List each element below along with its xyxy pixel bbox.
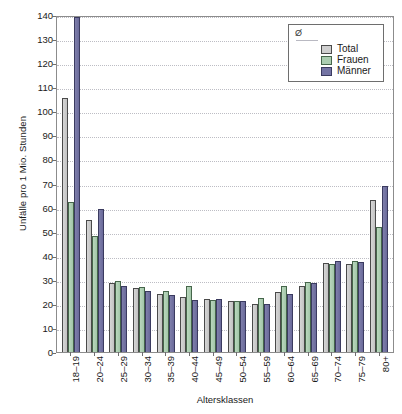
x-tick-label: 20–24 (94, 356, 105, 382)
y-tick-mark (52, 233, 56, 234)
x-tick-label: 65–69 (309, 356, 320, 382)
y-tick-label: 100 (7, 107, 53, 117)
bar-group (201, 17, 225, 352)
y-tick-label: 50 (7, 228, 53, 238)
y-tick-label: 130 (7, 35, 53, 45)
bar-mnner-80+ (382, 186, 388, 352)
legend-entry-frauen: Frauen (321, 55, 377, 65)
x-tick-label: 80+ (380, 356, 391, 372)
chart-figure: Unfälle pro 1 Mio. Stunden 1401301201101… (0, 0, 402, 414)
y-tick-label: 30 (7, 276, 53, 286)
bar-mnner-45-49 (216, 299, 222, 352)
legend-label: Total (337, 44, 358, 54)
y-tick-mark (52, 40, 56, 41)
mean-symbol: Ø (295, 29, 377, 38)
y-tick-mark (52, 353, 56, 354)
x-label-cell: 75–79 (344, 356, 368, 396)
bar-group (106, 17, 130, 352)
x-tick-label: 25–29 (118, 356, 129, 382)
x-label-cell: 45–49 (201, 356, 225, 396)
x-tick-label: 75–79 (356, 356, 367, 382)
bar-mnner-60-64 (287, 294, 293, 352)
y-tick-mark (52, 16, 56, 17)
y-tick-mark (52, 209, 56, 210)
x-label-cell: 70–74 (320, 356, 344, 396)
x-label-cell: 40–44 (177, 356, 201, 396)
y-tick-label: 0 (7, 348, 53, 358)
bar-group (154, 17, 178, 352)
bar-mnner-30-34 (145, 291, 151, 352)
y-tick-mark (52, 160, 56, 161)
x-tick-label: 35–39 (165, 356, 176, 382)
x-tick-label: 55–59 (261, 356, 272, 382)
x-axis-tick-labels: 18–1920–2425–2930–3435–3940–4445–4950–54… (56, 356, 394, 396)
x-label-cell: 65–69 (297, 356, 321, 396)
bar-group (59, 17, 83, 352)
x-label-cell: 50–54 (225, 356, 249, 396)
legend-swatch-total (321, 45, 332, 54)
y-tick-label: 20 (7, 300, 53, 310)
bar-mnner-55-59 (264, 304, 270, 352)
bar-mnner-50-54 (240, 301, 246, 352)
y-tick-mark (52, 136, 56, 137)
x-tick-label: 18–19 (70, 356, 81, 382)
y-tick-mark (52, 329, 56, 330)
x-tick-label: 40–44 (189, 356, 200, 382)
legend-label: Frauen (337, 55, 369, 65)
legend-label: Männer (337, 66, 371, 76)
bar-group (178, 17, 202, 352)
y-tick-label: 60 (7, 204, 53, 214)
y-tick-label: 80 (7, 155, 53, 165)
bar-mnner-40-44 (192, 300, 198, 352)
y-tick-label: 40 (7, 252, 53, 262)
x-label-cell: 55–59 (249, 356, 273, 396)
y-tick-mark (52, 257, 56, 258)
bar-mnner-18-19 (74, 17, 80, 352)
y-tick-mark (52, 281, 56, 282)
y-tick-mark (52, 88, 56, 89)
legend-swatch-mnner (321, 67, 332, 76)
bar-mnner-25-29 (121, 286, 127, 352)
y-tick-label: 10 (7, 324, 53, 334)
x-label-cell: 25–29 (106, 356, 130, 396)
bar-mnner-20-24 (98, 209, 104, 352)
y-tick-mark (52, 112, 56, 113)
x-tick-label: 50–54 (237, 356, 248, 382)
legend-entries: TotalFrauenMänner (295, 44, 377, 76)
y-tick-mark (52, 305, 56, 306)
legend-entry-total: Total (321, 44, 377, 54)
mean-line-swatch (296, 40, 318, 41)
bar-mnner-70-74 (335, 261, 341, 352)
x-label-cell: 35–39 (153, 356, 177, 396)
y-tick-mark (52, 64, 56, 65)
bar-group (83, 17, 107, 352)
x-label-cell: 20–24 (82, 356, 106, 396)
x-axis-title: Altersklassen (56, 394, 394, 405)
y-tick-label: 120 (7, 59, 53, 69)
bar-group (225, 17, 249, 352)
legend-entry-mnner: Männer (321, 66, 377, 76)
y-tick-label: 110 (7, 83, 53, 93)
x-tick-label: 45–49 (213, 356, 224, 382)
x-label-cell: 30–34 (130, 356, 154, 396)
footnote-text (56, 408, 402, 414)
x-tick-label: 60–64 (285, 356, 296, 382)
y-tick-label: 90 (7, 131, 53, 141)
y-tick-label: 70 (7, 180, 53, 190)
x-label-cell: 80+ (368, 356, 392, 396)
bar-mnner-35-39 (169, 295, 175, 352)
x-tick-label: 30–34 (142, 356, 153, 382)
bar-mnner-75-79 (358, 262, 364, 352)
x-label-cell: 18–19 (58, 356, 82, 396)
legend: Ø TotalFrauenMänner (288, 24, 384, 82)
legend-swatch-frauen (321, 56, 332, 65)
bar-group (130, 17, 154, 352)
y-tick-label: 140 (7, 11, 53, 21)
bar-group (249, 17, 273, 352)
x-tick-label: 70–74 (332, 356, 343, 382)
bar-mnner-65-69 (311, 283, 317, 352)
y-axis-title: Unfälle pro 1 Mio. Stunden (17, 74, 28, 274)
y-tick-mark (52, 185, 56, 186)
x-label-cell: 60–64 (273, 356, 297, 396)
